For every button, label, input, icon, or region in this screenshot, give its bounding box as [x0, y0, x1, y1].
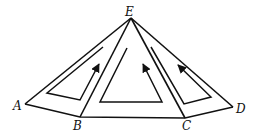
face-paths [47, 47, 211, 104]
base-edges [25, 104, 233, 118]
edge-DE [131, 18, 233, 107]
label-D: D [235, 102, 246, 116]
center-face-path [100, 48, 162, 102]
vertex-labels: E A B C D [12, 5, 246, 133]
label-C: C [182, 119, 191, 133]
pyramid-edges [25, 18, 233, 118]
pyramid-diagram: E A B C D [0, 0, 259, 135]
left-face-path [47, 47, 103, 100]
label-A: A [12, 99, 22, 113]
edge-AE [25, 18, 131, 104]
edge-CE [131, 18, 185, 118]
right-face-path [151, 47, 211, 104]
label-E: E [124, 5, 134, 19]
label-B: B [72, 119, 82, 133]
